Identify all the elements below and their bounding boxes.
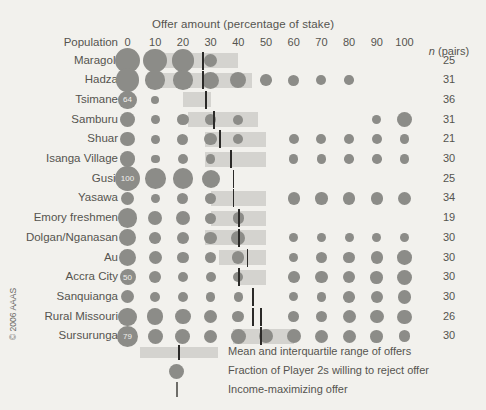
rejection-bubble (148, 329, 163, 344)
row-label-au: Au (0, 250, 118, 264)
rejection-bubble (151, 135, 160, 144)
rejection-bubble (344, 134, 354, 144)
rejection-bubble (317, 233, 326, 242)
row-label-maragoli: Maragoli (0, 53, 118, 67)
rejection-bubble (343, 192, 355, 204)
row-label-emory-freshmen: Emory freshmen (0, 210, 118, 224)
x-tick-100: 100 (390, 36, 420, 48)
rejection-bubble (372, 154, 382, 164)
row-n-value: 30 (412, 289, 486, 303)
row-label-tsimane: Tsimane (0, 92, 118, 106)
rejection-bubble (175, 309, 190, 324)
rejection-bubble (149, 232, 161, 244)
x-tick-10: 10 (140, 36, 170, 48)
rejection-bubble (315, 330, 328, 343)
rejection-bubble (289, 233, 298, 242)
rejection-bubble (288, 75, 299, 86)
income-maximizing-offer-line (233, 189, 235, 207)
rejection-bubble (202, 72, 219, 89)
rejection-bubble (232, 311, 244, 323)
x-tick-50: 50 (251, 36, 281, 48)
rejection-bubble (178, 292, 189, 303)
row-n-value: 25 (412, 171, 486, 185)
rejection-bubble (317, 292, 327, 302)
rejection-bubble (234, 292, 244, 302)
rejection-bubble (178, 154, 189, 165)
x-tick-0: 0 (113, 36, 143, 48)
x-tick-70: 70 (306, 36, 336, 48)
row-n-value: 30 (412, 269, 486, 283)
rejection-bubble (343, 330, 356, 343)
rejection-bubble (121, 290, 134, 303)
rejection-bubble (147, 308, 163, 324)
mean-offer-marker (238, 229, 240, 247)
mean-offer-marker (205, 91, 207, 109)
row-n-value: 21 (412, 131, 486, 145)
rejection-bubble (118, 308, 136, 326)
row-label-isanga-village: Isanga Village (0, 151, 118, 165)
mean-offer-marker (247, 249, 249, 267)
chart-title: Offer amount (percentage of stake) (0, 18, 486, 30)
row-n-value: 30 (412, 250, 486, 264)
rejection-bubble (148, 211, 162, 225)
rejection-bubble (177, 232, 189, 244)
rejection-bubble (371, 251, 383, 263)
rejection-bubble (145, 70, 165, 90)
rejection-bubble (175, 329, 190, 344)
rejection-bubble (315, 192, 327, 204)
rejection-bubble (316, 134, 326, 144)
rejection-bubble (176, 211, 190, 225)
rejection-bubble (370, 310, 383, 323)
rejection-bubble: 100 (115, 166, 140, 191)
rejection-bubble (145, 168, 166, 189)
rejection-bubble (233, 115, 243, 125)
rejection-bubble (206, 154, 216, 164)
rejection-bubble (370, 330, 383, 343)
rejection-bubble (260, 74, 272, 86)
rejection-bubble (177, 114, 189, 126)
rejection-bubble (116, 68, 140, 92)
rejection-bubble (397, 250, 412, 265)
rejection-bubble (119, 249, 137, 267)
rejection-bubble (316, 252, 327, 263)
rejection-bubble (173, 168, 194, 189)
rejection-bubble (288, 192, 300, 204)
legend-label-income-max: Income-maximizing offer (228, 383, 348, 395)
iqr-band (211, 191, 266, 206)
rejection-bubble (372, 115, 381, 124)
rejection-bubble (397, 112, 412, 127)
row-label-hadza: Hadza (0, 72, 118, 86)
rejection-bubble (151, 155, 160, 164)
rejection-bubble (150, 292, 160, 302)
rejection-bubble (289, 253, 298, 262)
row-n-value: 25 (412, 53, 486, 67)
mean-offer-marker (230, 150, 232, 168)
rejection-bubble (343, 271, 355, 283)
rejection-bubble (231, 329, 246, 344)
income-maximizing-offer-line (252, 288, 254, 306)
row-label-samburu: Samburu (0, 112, 118, 126)
rejection-bubble (289, 134, 299, 144)
rejection-bubble (118, 208, 138, 228)
rejection-bubble (288, 311, 299, 322)
legend-item-rejection: Fraction of Player 2s willing to reject … (140, 362, 470, 381)
rejection-bubble (178, 272, 189, 283)
copyright-notice: © 2006 AAAS (8, 288, 18, 340)
x-tick-40: 40 (223, 36, 253, 48)
income-maximizing-offer-line (260, 308, 262, 326)
rejection-bubble (343, 310, 356, 323)
rejection-bubble (205, 252, 216, 263)
mean-offer-marker (202, 52, 204, 70)
rejection-bubble (398, 192, 411, 205)
mean-offer-marker (202, 71, 204, 89)
row-n-value: 31 (412, 72, 486, 86)
rejection-bubble (398, 290, 411, 303)
row-n-value: 34 (412, 190, 486, 204)
rejection-bubble (344, 75, 354, 85)
line-swatch-icon (176, 382, 178, 397)
row-n-value: 19 (412, 210, 486, 224)
chart-legend: Mean and interquartile range of offers F… (140, 343, 470, 400)
rejection-bubble (204, 232, 216, 244)
iqr-band (188, 112, 257, 127)
rejection-bubble (151, 96, 159, 104)
